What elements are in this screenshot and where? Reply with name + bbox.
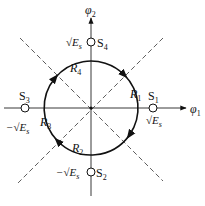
s1-label: S1 [148, 89, 159, 105]
s3-value-label: −√Es [6, 121, 29, 136]
s2-value-label: −√Es [56, 166, 79, 181]
s2-label: S2 [96, 166, 107, 182]
s3-label: S3 [19, 89, 30, 105]
s1-value-label: √Es [146, 114, 162, 129]
signal-point-s2 [87, 168, 95, 176]
phi2-axis-label: φ2 [85, 3, 96, 19]
origin-point [89, 106, 92, 109]
phi1-axis-label: φ1 [190, 102, 201, 118]
signal-point-s3 [21, 104, 29, 112]
region-r4-label: R4 [69, 61, 81, 77]
region-r1-label: R1 [129, 87, 141, 103]
signal-point-s1 [149, 104, 157, 112]
signal-constellation-diagram: φ2 φ1 S4 S1 S3 S2 √Es √Es −√Es −√Es R4 R… [0, 0, 205, 206]
s4-label: S4 [97, 36, 108, 52]
signal-point-s4 [87, 38, 95, 46]
region-r3-label: R3 [39, 115, 51, 131]
s4-value-label: √Es [66, 36, 82, 51]
decision-boundary-diagonal-2 [16, 38, 163, 185]
region-r2-label: R2 [71, 141, 83, 157]
